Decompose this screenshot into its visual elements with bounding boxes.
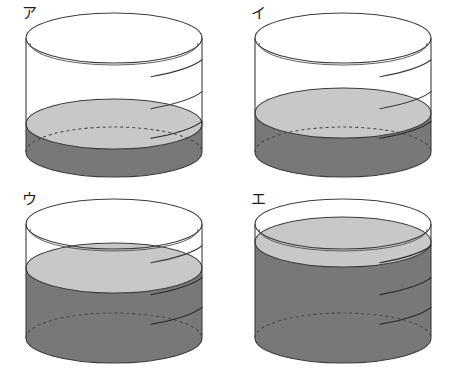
cylinder-drawing-e (229, 186, 458, 372)
cylinder-label-a: ア (22, 6, 37, 21)
cylinder-drawing-u (0, 186, 229, 372)
cylinder-cell-i: イ (229, 0, 458, 186)
cylinder-figure: ア イ ウ エ (0, 0, 459, 372)
cylinder-drawing-i (229, 0, 458, 186)
cylinder-drawing-a (0, 0, 229, 186)
cylinder-cell-u: ウ (0, 186, 229, 372)
cylinder-label-e: エ (251, 192, 266, 207)
cylinder-label-i: イ (251, 6, 266, 21)
cylinder-label-u: ウ (22, 192, 37, 207)
cylinder-cell-a: ア (0, 0, 229, 186)
cylinder-cell-e: エ (229, 186, 458, 372)
